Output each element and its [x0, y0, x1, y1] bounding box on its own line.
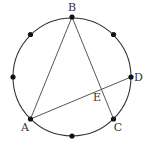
- segment-ab: [31, 17, 73, 119]
- chord-segments: [31, 17, 132, 119]
- label-c: C: [114, 121, 122, 134]
- label-d: D: [134, 71, 143, 84]
- label-e: E: [93, 91, 101, 104]
- point-dot-d: [128, 74, 133, 79]
- circle-points: [10, 14, 133, 138]
- point-dot-b: [69, 14, 74, 19]
- circle-diagram: BDCAE: [0, 0, 148, 146]
- point-dot-p3: [10, 74, 15, 79]
- point-dot-p4: [28, 32, 33, 37]
- point-labels: BDCAE: [20, 1, 143, 134]
- segment-ad: [31, 77, 132, 119]
- label-b: B: [68, 1, 76, 14]
- label-a: A: [20, 121, 30, 134]
- point-dot-p2: [69, 133, 74, 138]
- point-dot-p1: [111, 32, 116, 37]
